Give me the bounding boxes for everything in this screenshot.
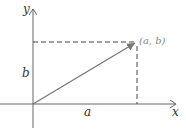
component-b-label: b (22, 66, 30, 80)
y-axis-label: y (22, 2, 30, 16)
point-label: (a, b) (139, 35, 166, 46)
vector-arrow (33, 43, 135, 104)
vector-diagram: y x b a (a, b) (0, 0, 186, 135)
component-a-label: a (84, 105, 91, 119)
x-axis-label: x (172, 105, 179, 119)
